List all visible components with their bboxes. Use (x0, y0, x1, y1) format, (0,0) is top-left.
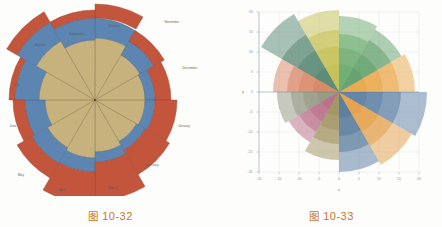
caption-number: 10-33 (323, 210, 354, 222)
xtick-neg5: -5 (317, 177, 320, 181)
month-label-april: April (59, 188, 66, 192)
figure-10-32: November December January February March… (0, 0, 221, 227)
xtick-neg10: -10 (297, 177, 302, 181)
polar-chart-months: November December January February March… (0, 0, 221, 196)
textbook-page: November December January February March… (0, 0, 442, 227)
ytick-neg20: -20 (248, 170, 253, 174)
figure-10-33: 20 15 10 5 0 -5 -10 -15 -20 -20 -15 -10 … (221, 0, 442, 227)
ytick-0: 0 (251, 90, 253, 94)
polar-origin (94, 99, 96, 101)
month-label-august: August (35, 43, 45, 47)
month-label-september: September (69, 32, 85, 36)
month-label-december: December (182, 66, 197, 70)
xtick-neg15: -15 (277, 177, 282, 181)
xtick-20: 20 (417, 177, 421, 181)
caption-cjk-char: 图 (309, 210, 320, 222)
y-axis-label: y (242, 90, 244, 94)
figure-caption-10-32: 图 10-32 (0, 208, 221, 223)
ytick-neg5: -5 (249, 110, 252, 114)
caption-number: 10-32 (102, 210, 133, 222)
month-label-june: June (9, 124, 16, 128)
xtick-0: 0 (338, 177, 340, 181)
caption-cjk-char: 图 (88, 210, 99, 222)
month-label-january: January (178, 124, 190, 128)
month-label-july: July (14, 83, 20, 87)
ytick-15: 15 (249, 30, 253, 34)
ytick-neg10: -10 (248, 130, 253, 134)
xtick-15: 15 (397, 177, 401, 181)
month-label-february: February (145, 163, 158, 167)
ytick-neg15: -15 (248, 150, 253, 154)
ytick-20: 20 (249, 10, 253, 14)
ytick-10: 10 (249, 50, 253, 54)
xtick-neg20: -20 (257, 177, 262, 181)
xtick-10: 10 (377, 177, 381, 181)
month-label-november: November (164, 20, 179, 24)
month-label-march: March (108, 186, 117, 190)
ytick-5: 5 (251, 70, 253, 74)
month-label-october: October (108, 24, 120, 28)
figure-caption-10-33: 图 10-33 (221, 208, 442, 223)
polar-chart-months-svg (0, 0, 221, 196)
x-axis-label: x (338, 188, 340, 192)
polar-chart-colorwheel-svg (221, 0, 442, 196)
month-label-may: May (18, 173, 24, 177)
polar-chart-colorwheel: 20 15 10 5 0 -5 -10 -15 -20 -20 -15 -10 … (221, 0, 442, 196)
xtick-5: 5 (358, 177, 360, 181)
